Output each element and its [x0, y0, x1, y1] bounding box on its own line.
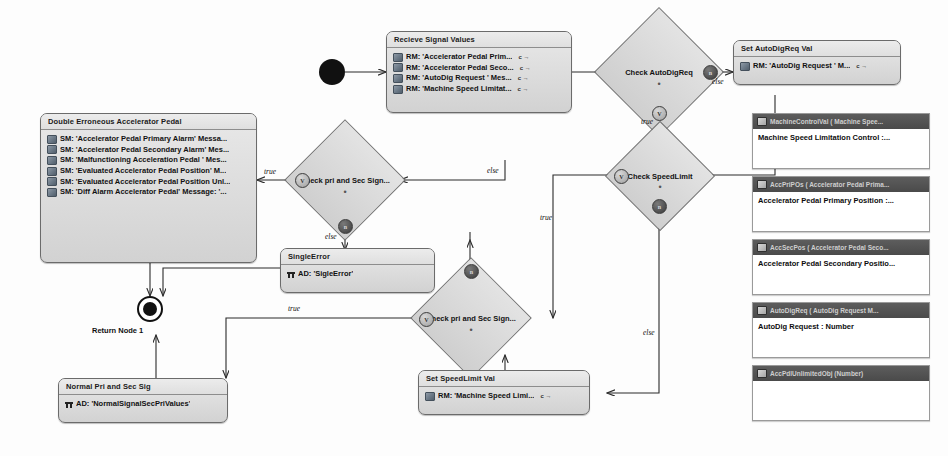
object-node-acc-pri-pos[interactable]: AccPriPOs ( Accelerator Pedal Prima... A…	[752, 176, 930, 232]
object-icon	[757, 180, 767, 189]
activity-decomposition-icon	[287, 270, 295, 278]
node-header: Recieve Signal Values	[387, 32, 571, 48]
send-message-icon	[47, 188, 57, 197]
pin-v-checkautodig[interactable]: V	[652, 106, 667, 121]
object-icon	[757, 243, 767, 252]
node-header: Normal Pri and Sec Sig	[59, 379, 227, 395]
read-message-icon	[425, 392, 435, 401]
edge-singleerror-to-return	[163, 268, 280, 296]
decision-label: Check pri and Sec Sign...	[426, 314, 516, 323]
decision-label: Check AutoDigReq	[625, 68, 693, 77]
pin-n-checkprisec-lower[interactable]: n	[464, 264, 479, 279]
object-node-body: Accelerator Pedal Secondary Positio...	[753, 255, 929, 272]
pin-v-checkprisec-upper[interactable]: V	[295, 173, 310, 188]
node-body: RM: 'Accelerator Pedal Prim... c → RM: '…	[387, 48, 571, 99]
node-body: AD: 'NormalSignalSecPriValues'	[59, 395, 227, 414]
object-node-header: AccPdlUnlimitedObj (Number)	[753, 366, 929, 381]
object-node-header: MachineControlVal ( Machine Spee...	[753, 114, 929, 129]
node-row[interactable]: RM: 'Accelerator Pedal Seco... c →	[393, 63, 566, 74]
node-row[interactable]: SM: 'Evaluated Accelerator Pedal Positio…	[47, 177, 251, 188]
edge-label-else-speedlimit: else	[643, 328, 655, 337]
activity-normal-pri-and-sec-sig[interactable]: Normal Pri and Sec Sig AD: 'NormalSignal…	[58, 378, 228, 423]
activity-set-speedlimit-val[interactable]: Set SpeedLimit Val RM: 'Machine Speed Li…	[418, 370, 590, 415]
object-node-body: Accelerator Pedal Primary Position :...	[753, 192, 929, 209]
activity-double-erroneous-accelerator-pedal[interactable]: Double Erroneous Accelerator Pedal SM: '…	[40, 113, 257, 263]
pin-n-checkautodig[interactable]: n	[703, 65, 718, 80]
node-header: SingleError	[281, 249, 434, 265]
edge-lowerdecision-true-to-normal	[226, 318, 424, 378]
node-row[interactable]: SM: 'Malfunctioning Acceleration Pedal '…	[47, 155, 251, 166]
pin-v-checkprisec-lower[interactable]: V	[419, 312, 434, 327]
decision-dot: •	[469, 325, 472, 335]
pin-v-checkspeedlimit[interactable]: V	[614, 169, 629, 184]
read-message-icon	[393, 74, 403, 83]
node-header: Double Erroneous Accelerator Pedal	[41, 114, 256, 130]
object-node-machine-control-val[interactable]: MachineControlVal ( Machine Spee... Mach…	[752, 113, 930, 169]
edge-label-else-upper-right: else	[487, 166, 499, 175]
object-icon	[757, 369, 767, 378]
object-node-acc-sec-pos[interactable]: AccSecPos ( Accelerator Pedal Seco... Ac…	[752, 239, 930, 295]
node-row[interactable]: SM: 'Accelerator Pedal Primary Alarm' Me…	[47, 134, 251, 145]
send-message-icon	[47, 145, 57, 154]
object-node-body: AutoDig Request : Number	[753, 318, 929, 335]
object-node-body	[753, 381, 929, 389]
return-node-label: Return Node 1	[92, 326, 143, 335]
edge-checkspeedlimit-true	[553, 175, 622, 318]
node-body: SM: 'Accelerator Pedal Primary Alarm' Me…	[41, 130, 256, 202]
edge-checkspeedlimit-else	[607, 212, 659, 393]
initial-node[interactable]	[319, 59, 345, 85]
edge-label-true-lower: true	[288, 304, 300, 313]
object-node-header: AccSecPos ( Accelerator Pedal Seco...	[753, 240, 929, 255]
object-icon	[757, 306, 767, 315]
send-message-icon	[47, 177, 57, 186]
activity-set-autodigreq-val[interactable]: Set AutoDigReq Val RM: 'AutoDig Request …	[733, 40, 901, 85]
node-row[interactable]: RM: 'AutoDig Request ' Mes... c →	[393, 73, 566, 84]
send-message-icon	[47, 135, 57, 144]
send-message-icon	[47, 167, 57, 176]
node-body: RM: 'Machine Speed Limi... c →	[419, 387, 589, 406]
node-row[interactable]: AD: 'NormalSignalSecPriValues'	[65, 399, 222, 410]
decision-label: Check pri and Sec Sign...	[300, 176, 390, 185]
decision-dot: •	[657, 79, 660, 89]
edge-label-else-upper: else	[325, 232, 337, 241]
decision-dot: •	[658, 182, 661, 192]
pin-n-checkprisec-upper[interactable]: n	[338, 219, 353, 234]
node-row[interactable]: RM: 'Machine Speed Limi... c →	[425, 391, 584, 402]
node-row[interactable]: RM: 'Accelerator Pedal Prim... c →	[393, 52, 566, 63]
node-row[interactable]: AD: 'SigleError'	[287, 269, 429, 280]
object-node-autodigreq[interactable]: AutoDigReq ( AutoDig Request M... AutoDi…	[752, 302, 930, 358]
node-header: Set SpeedLimit Val	[419, 371, 589, 387]
node-row[interactable]: RM: 'Machine Speed Limitat... c →	[393, 84, 566, 95]
edge-label-true-speedlimit: true	[540, 213, 552, 222]
activity-recieve-signal-values[interactable]: Recieve Signal Values RM: 'Accelerator P…	[386, 31, 572, 113]
activity-final-node[interactable]	[137, 296, 163, 322]
node-body: AD: 'SigleError'	[281, 265, 434, 284]
read-message-icon	[740, 62, 750, 71]
object-icon	[757, 117, 767, 126]
node-header: Set AutoDigReq Val	[734, 41, 900, 57]
object-node-body: Machine Speed Limitation Control :...	[753, 129, 929, 146]
decision-check-pri-sec-lower[interactable]: Check pri and Sec Sign... •	[428, 275, 514, 361]
decision-check-pri-sec-upper[interactable]: Check pri and Sec Sign... •	[302, 137, 388, 223]
object-node-accpdl-unlimited[interactable]: AccPdlUnlimitedObj (Number)	[752, 365, 930, 421]
pin-n-checkspeedlimit[interactable]: n	[652, 199, 667, 214]
decision-label: Check SpeedLimit	[627, 172, 692, 181]
send-message-icon	[47, 156, 57, 165]
node-row[interactable]: SM: 'Diff Alarm Accelerator Pedal' Messa…	[47, 187, 251, 198]
edge-label-true-upper: true	[264, 167, 276, 176]
activity-decomposition-icon	[65, 400, 73, 408]
decision-dot: •	[343, 187, 346, 197]
node-row[interactable]: SM: 'Accelerator Pedal Secondary Alarm' …	[47, 145, 251, 156]
node-row[interactable]: RM: 'AutoDig Request ' M... c →	[740, 61, 895, 72]
read-message-icon	[393, 85, 403, 94]
read-message-icon	[393, 63, 403, 72]
read-message-icon	[393, 53, 403, 62]
activity-single-error[interactable]: SingleError AD: 'SigleError'	[280, 248, 435, 293]
edge-label-true-autodig: true	[641, 117, 653, 126]
node-body: RM: 'AutoDig Request ' M... c →	[734, 57, 900, 76]
object-node-header: AccPriPOs ( Accelerator Pedal Prima...	[753, 177, 929, 192]
node-row[interactable]: SM: 'Evaluated Accelerator Pedal Positio…	[47, 166, 251, 177]
activity-diagram-canvas: Recieve Signal Values RM: 'Accelerator P…	[0, 0, 948, 456]
decision-check-autodigreq[interactable]: Check AutoDigReq •	[613, 26, 705, 118]
object-node-header: AutoDigReq ( AutoDig Request M...	[753, 303, 929, 318]
